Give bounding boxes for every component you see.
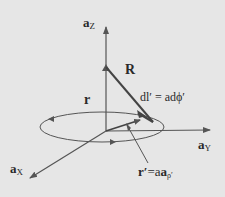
current-loop-diagram: aZ R r dl′ = adϕ′ aY aX r′=aaρ′ bbox=[0, 0, 225, 197]
label-az: aZ bbox=[83, 15, 95, 31]
label-dl: dl′ = adϕ′ bbox=[140, 90, 185, 104]
loop-direction-arrow-front bbox=[110, 139, 116, 145]
label-r: r bbox=[84, 92, 90, 107]
loop-direction-arrow-back bbox=[48, 116, 54, 122]
label-r-prime: r′=aaρ′ bbox=[138, 164, 173, 180]
label-ay: aY bbox=[198, 137, 212, 153]
label-ax: aX bbox=[10, 161, 24, 177]
label-R: R bbox=[125, 62, 136, 77]
y-axis bbox=[106, 130, 210, 131]
x-axis bbox=[30, 131, 106, 178]
r-prime-vector bbox=[106, 120, 140, 131]
